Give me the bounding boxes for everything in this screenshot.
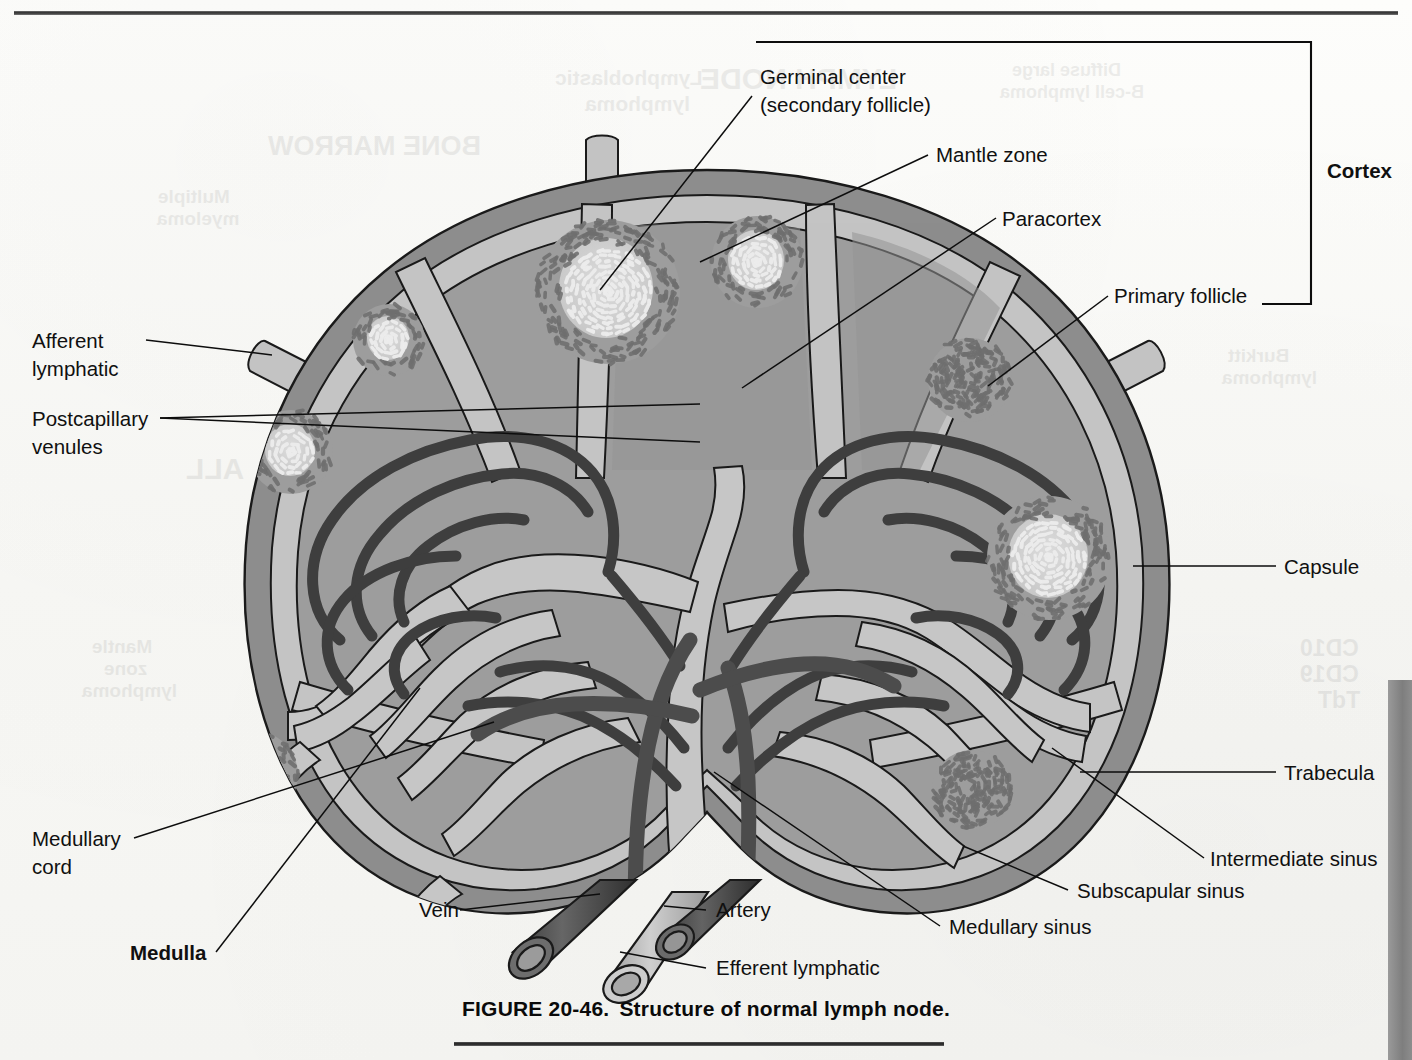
label-efferent-lymphatic: Efferent lymphatic <box>716 956 880 979</box>
label-capsule: Capsule <box>1284 555 1359 578</box>
label-cortex: Cortex <box>1327 159 1393 182</box>
label-vein: Vein <box>419 898 459 921</box>
label-intermediate-sinus: Intermediate sinus <box>1210 847 1378 870</box>
label-afferent-lymphatic-line2: lymphatic <box>32 357 119 380</box>
figure-page: LYMPH NODE Lymphoblastic lymphoma Diffus… <box>0 0 1412 1060</box>
label-medullary-cord-line2: cord <box>32 855 72 878</box>
lymph-node-diagram: Germinal center (secondary follicle) Man… <box>0 0 1412 1060</box>
label-paracortex: Paracortex <box>1002 207 1102 230</box>
label-subscapular-sinus: Subscapular sinus <box>1077 879 1245 902</box>
figure-caption: FIGURE 20-46.Structure of normal lymph n… <box>0 997 1412 1021</box>
label-germinal-center-line2: (secondary follicle) <box>760 93 931 116</box>
label-trabecula: Trabecula <box>1284 761 1375 784</box>
efferent-lymphatic-vessel <box>597 892 708 1010</box>
label-germinal-center-line1: Germinal center <box>760 65 906 88</box>
label-postcapillary-venules-line2: venules <box>32 435 103 458</box>
label-medulla: Medulla <box>130 941 207 964</box>
caption-rule <box>454 1042 944 1046</box>
label-medullary-cord-line1: Medullary <box>32 827 122 850</box>
label-primary-follicle: Primary follicle <box>1114 284 1247 307</box>
figure-number: FIGURE 20-46. <box>462 997 609 1020</box>
label-afferent-lymphatic-line1: Afferent <box>32 329 104 352</box>
figure-title: Structure of normal lymph node. <box>619 997 950 1020</box>
label-mantle-zone: Mantle zone <box>936 143 1048 166</box>
label-medullary-sinus: Medullary sinus <box>949 915 1091 938</box>
label-artery: Artery <box>716 898 771 921</box>
label-postcapillary-venules-line1: Postcapillary <box>32 407 149 430</box>
